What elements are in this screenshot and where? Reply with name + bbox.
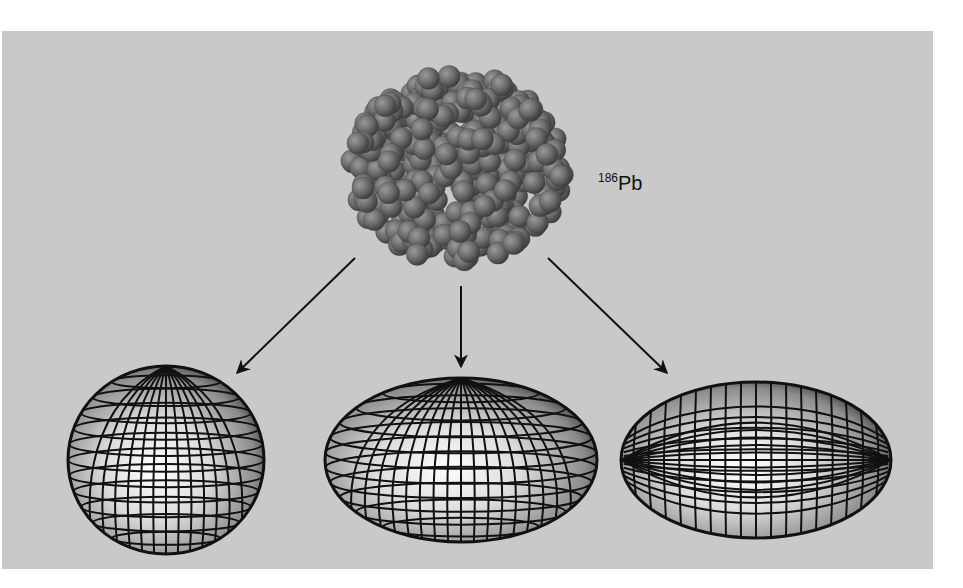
nucleon — [458, 241, 480, 263]
nucleon — [411, 118, 433, 140]
nucleon — [549, 165, 571, 187]
nucleon — [417, 98, 439, 120]
prolate-shape — [621, 382, 891, 538]
nucleon — [519, 99, 541, 121]
nucleon — [374, 95, 396, 117]
nucleon — [436, 143, 458, 165]
nucleon — [491, 74, 513, 96]
nucleon — [539, 190, 561, 212]
nucleon — [352, 177, 374, 199]
nucleon — [465, 88, 487, 110]
nucleon — [523, 172, 545, 194]
deformed-shapes — [68, 366, 891, 554]
mass-number: 186 — [598, 171, 618, 185]
nucleon — [449, 220, 471, 242]
nuclear-shape-diagram: 186Pb — [0, 0, 963, 588]
oblate-shape — [325, 378, 597, 542]
nucleon — [347, 132, 369, 154]
nucleon — [474, 195, 496, 217]
nucleon — [418, 67, 440, 89]
nucleon — [378, 151, 400, 173]
nucleon — [504, 149, 526, 171]
spherical-shape — [68, 366, 264, 554]
nucleon — [418, 182, 440, 204]
nucleon — [406, 243, 428, 265]
nucleon — [413, 138, 435, 160]
nucleon — [494, 179, 516, 201]
nucleon — [503, 233, 525, 255]
element-symbol: Pb — [618, 172, 642, 194]
nucleon — [378, 182, 400, 204]
nucleon — [536, 143, 558, 165]
nucleon — [472, 128, 494, 150]
nucleon — [453, 181, 475, 203]
